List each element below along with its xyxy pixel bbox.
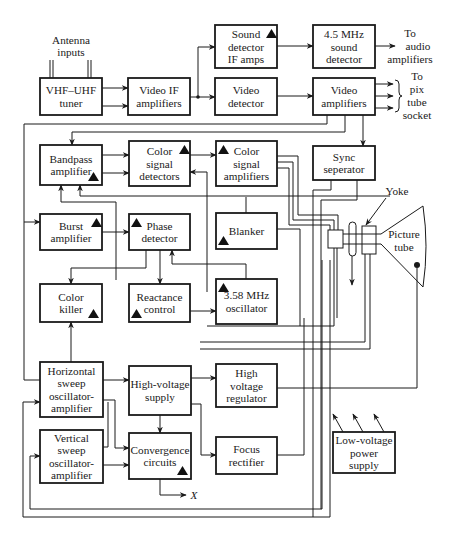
block-color-signal-detectors: Colorsignaldetectors: [129, 141, 190, 186]
block-label-line: Video: [331, 84, 358, 96]
antenna-label-line2: inputs: [57, 46, 84, 58]
block-label-line: 3.58 MHz: [224, 289, 269, 301]
block-label-line: detector: [228, 97, 264, 109]
block-label-line: 4.5 MHz: [324, 28, 364, 40]
picture-tube-label: Picture tube: [388, 228, 420, 253]
block-label-line: oscillator-: [49, 390, 94, 402]
block-label-line: sweep: [58, 444, 86, 456]
picture-tube-line1: Picture: [388, 228, 420, 240]
block-sound-detector: SounddetectorIF amps: [215, 25, 277, 68]
block-label-line: Sync: [333, 151, 355, 163]
to-pix-line3: tube: [407, 96, 426, 108]
block-label-line: amplifiers: [321, 97, 366, 109]
block-label-line: amplifier: [51, 402, 92, 414]
block-label-line: detector: [141, 232, 177, 244]
block-label-line: oscillator: [226, 302, 268, 314]
block-video-if: Video IFamplifiers: [128, 78, 190, 115]
block-label-line: Video IF: [139, 84, 178, 96]
block-label-line: High: [235, 367, 258, 379]
to-pix-line1: To: [411, 70, 423, 82]
block-sync-separator: Syncseperator: [313, 146, 375, 180]
block-label-line: detector: [228, 41, 264, 53]
block-label-line: Color: [147, 145, 173, 157]
block-label-line: sweep: [58, 377, 86, 389]
block-label-line: VHF–UHF: [46, 84, 96, 96]
block-label-line: Burst: [59, 220, 84, 232]
tv-receiver-block-diagram: VHF–UHFtunerVideo IFamplifiersSounddetec…: [0, 0, 455, 540]
block-label-line: Focus: [233, 443, 260, 455]
block-convergence-circuits: Convergencecircuits: [129, 433, 191, 479]
block-label-line: signal: [233, 158, 260, 170]
block-label-line: amplifier: [50, 232, 91, 244]
block-label-line: signal: [146, 158, 173, 170]
block-label-line: tuner: [60, 97, 83, 109]
block-label-line: rectifier: [229, 456, 265, 468]
block-burst-amplifier: Burstamplifier: [40, 214, 102, 250]
block-label-line: Sound: [232, 28, 261, 40]
block-horizontal-sweep: Horizontalsweeposcillator-amplifier: [40, 362, 103, 417]
block-label-line: regulator: [226, 392, 267, 404]
block-focus-rectifier: Focusrectifier: [216, 437, 277, 474]
block-label-line: Vertical: [54, 432, 89, 444]
to-audio-line2: audio: [406, 40, 431, 52]
picture-tube-line2: tube: [394, 241, 413, 253]
block-label-line: amplifiers: [224, 170, 269, 182]
block-label-line: Reactance: [137, 291, 183, 303]
block-label-line: detectors: [139, 170, 179, 182]
block-high-voltage-regulator: Highvoltageregulator: [216, 364, 277, 407]
block-label-line: Video: [233, 84, 260, 96]
block-group: VHF–UHFtunerVideo IFamplifiersSounddetec…: [40, 25, 395, 483]
block-label-line: detector: [326, 53, 362, 65]
block-label-line: oscillator-: [49, 457, 94, 469]
to-pix-label: To pix tube socket: [403, 70, 432, 121]
block-label-line: Color: [234, 145, 260, 157]
antenna-label: Antenna inputs: [52, 34, 90, 58]
block-label-line: control: [144, 303, 176, 315]
block-label-line: circuits: [144, 456, 177, 468]
block-label-line: killer: [59, 303, 83, 315]
block-label-line: Blanker: [229, 225, 265, 237]
block-label-line: supply: [145, 391, 175, 403]
to-pix-line4: socket: [403, 109, 432, 121]
block-video-detector: Videodetector: [215, 78, 277, 115]
to-audio-line3: amplifiers: [387, 53, 432, 65]
block-blanker: Blanker: [216, 213, 277, 249]
block-label-line: amplifier: [50, 165, 91, 177]
antenna-label-line1: Antenna: [52, 34, 90, 46]
block-label-line: seperator: [324, 163, 365, 175]
block-video-amplifiers: Videoamplifiers: [313, 78, 375, 115]
to-pix-line2: pix: [410, 83, 425, 95]
block-label-line: Bandpass: [50, 153, 93, 165]
block-tuner: VHF–UHFtuner: [40, 78, 102, 115]
block-label-line: power: [350, 447, 378, 459]
block-bandpass-amplifier: Bandpassamplifier: [40, 145, 102, 185]
x-output-label: X: [190, 489, 199, 501]
block-label-line: supply: [349, 459, 379, 471]
block-label-line: Color: [58, 291, 84, 303]
block-label-line: High-voltage: [130, 378, 189, 390]
block-oscillator-358: 3.58 MHzoscillator: [216, 279, 277, 324]
block-label-line: amplifier: [51, 469, 92, 481]
block-label-line: Convergence: [131, 444, 190, 456]
to-audio-line1: To: [404, 27, 416, 39]
block-phase-detector: Phasedetector: [129, 214, 190, 250]
block-label-line: Low-voltage: [335, 434, 392, 446]
block-vertical-sweep: Verticalsweeposcillator-amplifier: [40, 430, 103, 483]
block-color-killer: Colorkiller: [40, 284, 102, 322]
block-color-signal-amplifiers: Colorsignalamplifiers: [216, 141, 277, 186]
block-label-line: Horizontal: [48, 365, 96, 377]
block-label-line: sound: [331, 41, 358, 53]
block-label-line: amplifiers: [136, 97, 181, 109]
block-label-line: Phase: [146, 220, 172, 232]
block-label-line: voltage: [230, 380, 263, 392]
block-low-voltage-power-supply: Low-voltagepowersupply: [333, 432, 395, 473]
block-reactance-control: Reactancecontrol: [129, 284, 190, 322]
block-high-voltage-supply: High-voltagesupply: [129, 366, 191, 415]
block-sound-detector-45: 4.5 MHzsounddetector: [313, 25, 375, 68]
block-label-line: IF amps: [228, 53, 264, 65]
yoke-label: Yoke: [385, 185, 408, 197]
